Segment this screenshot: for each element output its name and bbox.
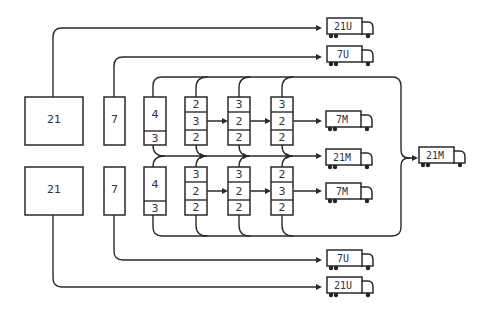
stack-cell-label: 3 [193, 168, 200, 181]
connector-7-to-7u-bottom [114, 215, 318, 260]
arrowhead [200, 153, 206, 159]
source-block: 7 [104, 97, 125, 145]
truck-icon: 21U [327, 18, 373, 38]
flow-diagram: 217217 4323232232243322322232 21U7U7M21M… [0, 0, 487, 314]
stack-cell-label: 2 [236, 201, 243, 214]
stack-cell-label: 3 [152, 132, 159, 145]
truck-label: 7U [337, 49, 349, 60]
stack-block: 322 [185, 167, 207, 215]
truck-icon: 21M [326, 149, 372, 169]
truck-label: 7M [336, 114, 348, 125]
stack-cell-label: 2 [193, 98, 200, 111]
stack-block: 232 [185, 97, 207, 145]
stack-block: 232 [271, 167, 293, 215]
source-block: 21 [25, 167, 83, 215]
stack-block: 43 [144, 97, 166, 145]
arrowhead [316, 25, 322, 31]
stack-cell-label: 3 [279, 98, 286, 111]
stack-cell-label: 2 [236, 131, 243, 144]
arrowhead [222, 188, 228, 194]
middle-branch-bottom-1 [153, 156, 164, 167]
arrowhead [222, 118, 228, 124]
stack-block: 322 [228, 167, 250, 215]
truck-icon: 7U [327, 46, 373, 66]
arrowhead [412, 155, 418, 161]
truck-label: 21U [334, 21, 352, 32]
stack-cell-label: 2 [279, 201, 286, 214]
loop-bottom-branch-4 [282, 215, 293, 236]
loop-top-branch-4 [282, 77, 293, 97]
arrowhead [243, 153, 249, 159]
stack-cell-label: 2 [236, 185, 243, 198]
source-block-label: 21 [47, 113, 61, 126]
truck-label: 21U [334, 280, 352, 291]
truck-label: 7M [336, 186, 348, 197]
connector-lines [53, 28, 418, 287]
connector-21-to-21u-bottom [53, 215, 318, 287]
trucks: 21U7U7M21M7M7U21U21M [326, 18, 465, 297]
stack-block: 322 [228, 97, 250, 145]
stack-cell-label: 2 [193, 201, 200, 214]
arrowhead [316, 153, 322, 159]
source-block-label: 7 [111, 183, 118, 196]
loop-bottom-branch-3 [239, 215, 250, 236]
stack-cell-label: 3 [152, 202, 159, 215]
stack-block: 322 [271, 97, 293, 145]
loop-top-branch-3 [239, 77, 250, 97]
stack-cell-label: 2 [236, 115, 243, 128]
truck-icon: 7M [326, 183, 372, 203]
truck-label: 21M [333, 152, 351, 163]
middle-branch-top-1 [153, 145, 164, 156]
connector-21-to-21u-top [53, 28, 318, 97]
arrowheads [200, 25, 322, 290]
arrowhead [316, 54, 322, 60]
stack-cell-label: 2 [279, 168, 286, 181]
stack-cell-label: 3 [236, 168, 243, 181]
stack-cell-label: 2 [279, 115, 286, 128]
truck-label: 7U [337, 253, 349, 264]
arrowhead [316, 188, 322, 194]
truck-icon: 7M [326, 111, 372, 131]
truck-icon: 21M [419, 147, 465, 167]
source-block-label: 7 [111, 113, 118, 126]
source-block: 21 [25, 97, 83, 145]
stack-cell-label: 4 [152, 178, 159, 191]
stack-cell-label: 3 [236, 98, 243, 111]
loop-bottom-branch-2 [196, 215, 207, 236]
arrowhead [316, 118, 322, 124]
truck-label: 21M [426, 150, 444, 161]
stack-cell-label: 4 [152, 108, 159, 121]
truck-icon: 21U [327, 277, 373, 297]
source-blocks: 217217 [25, 97, 125, 215]
arrowhead [265, 118, 271, 124]
source-block-label: 21 [47, 183, 61, 196]
loop-top-branch-2 [196, 77, 207, 97]
source-block: 7 [104, 167, 125, 215]
arrowhead [286, 153, 292, 159]
stack-cell-label: 2 [193, 131, 200, 144]
stack-block: 43 [144, 167, 166, 215]
arrowhead [316, 284, 322, 290]
stack-cell-label: 3 [193, 115, 200, 128]
stack-cell-label: 3 [279, 185, 286, 198]
arrowhead [265, 188, 271, 194]
stack-cell-label: 2 [279, 131, 286, 144]
stack-cell-label: 2 [193, 185, 200, 198]
arrowhead [316, 257, 322, 263]
truck-icon: 7U [327, 250, 373, 270]
